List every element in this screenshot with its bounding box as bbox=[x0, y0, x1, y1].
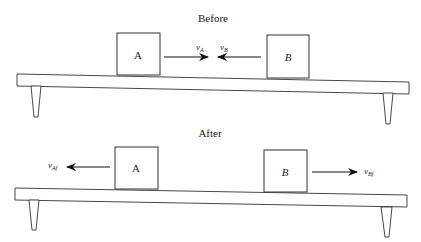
after-panel: After A B vAf vBf bbox=[15, 127, 407, 237]
block-a-label: A bbox=[134, 49, 142, 61]
block-b-label: B bbox=[282, 166, 289, 178]
before-block-b: B bbox=[267, 35, 309, 78]
table-leg-right bbox=[381, 207, 392, 237]
velocity-a-label: vA bbox=[196, 42, 204, 53]
before-panel: Before A B vA vB bbox=[17, 12, 409, 124]
before-table bbox=[17, 74, 409, 124]
table-leg-right bbox=[383, 93, 393, 124]
before-title: Before bbox=[198, 12, 228, 24]
after-block-a: A bbox=[115, 147, 158, 189]
velocity-b-label: vB bbox=[220, 42, 228, 53]
collision-diagram: Before A B vA vB After bbox=[0, 0, 421, 242]
block-b-label: B bbox=[285, 51, 292, 63]
after-block-b: B bbox=[264, 150, 307, 192]
after-title: After bbox=[198, 127, 222, 139]
velocity-bf-label: vBf bbox=[364, 166, 375, 177]
velocity-af-label: vAf bbox=[48, 160, 59, 171]
table-leg-left bbox=[31, 86, 41, 117]
before-block-a: A bbox=[117, 33, 160, 75]
table-leg-left bbox=[29, 200, 39, 230]
after-table bbox=[15, 188, 407, 237]
block-a-label: A bbox=[132, 162, 140, 174]
